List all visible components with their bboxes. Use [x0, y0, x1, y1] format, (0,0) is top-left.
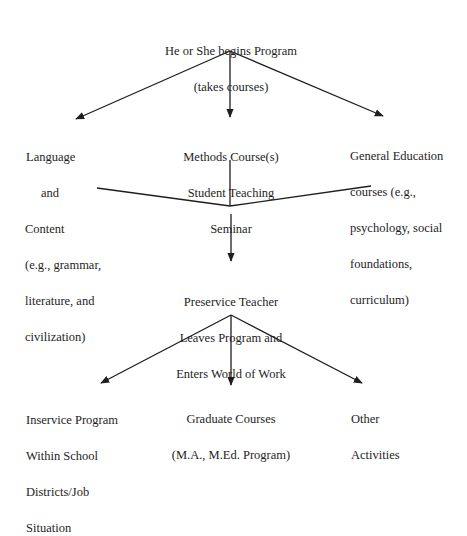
- node-other-line: Other: [351, 413, 431, 425]
- node-other: Other Activities: [351, 389, 431, 473]
- node-general-line: curriculum): [350, 294, 467, 306]
- node-preservice-line: Enters World of Work: [161, 368, 301, 380]
- node-graduate-line: (M.A., M.Ed. Program): [160, 449, 302, 461]
- node-preservice-line: Preservice Teacher: [161, 296, 301, 308]
- node-other-line: Activities: [351, 449, 431, 461]
- node-start: He or She begins Program (takes courses): [140, 21, 322, 105]
- node-preservice-line: Leaves Program and: [161, 332, 301, 344]
- node-language-line: and: [25, 187, 135, 199]
- node-inservice-line: Within School: [26, 450, 136, 462]
- node-inservice-line: Inservice Program: [26, 414, 136, 426]
- node-inservice-line: Districts/Job: [26, 486, 136, 498]
- node-general-line: foundations,: [350, 258, 467, 270]
- node-language-line: Language: [25, 151, 135, 163]
- node-language-line: (e.g., grammar,: [25, 259, 135, 271]
- node-inservice-line: Situation: [26, 522, 136, 534]
- node-language-line: civilization): [25, 331, 135, 343]
- node-language: Language and Content (e.g., grammar, lit…: [25, 127, 135, 355]
- node-general-line: courses (e.g.,: [350, 186, 467, 198]
- node-language-line: Content: [25, 223, 135, 235]
- node-methods: Methods Course(s) Student Teaching Semin…: [165, 127, 297, 247]
- node-general-line: psychology, social: [350, 222, 467, 234]
- node-general: General Education courses (e.g., psychol…: [350, 126, 467, 318]
- node-start-line: (takes courses): [140, 81, 322, 93]
- node-graduate-line: Graduate Courses: [160, 413, 302, 425]
- node-graduate: Graduate Courses (M.A., M.Ed. Program): [160, 389, 302, 473]
- node-methods-line: Student Teaching: [165, 187, 297, 199]
- node-methods-line: Methods Course(s): [165, 151, 297, 163]
- node-preservice: Preservice Teacher Leaves Program and En…: [161, 272, 301, 392]
- node-start-line: He or She begins Program: [140, 45, 322, 57]
- node-general-line: General Education: [350, 150, 467, 162]
- node-language-line: literature, and: [25, 295, 135, 307]
- node-methods-line: Seminar: [165, 223, 297, 235]
- node-inservice: Inservice Program Within School District…: [26, 390, 136, 536]
